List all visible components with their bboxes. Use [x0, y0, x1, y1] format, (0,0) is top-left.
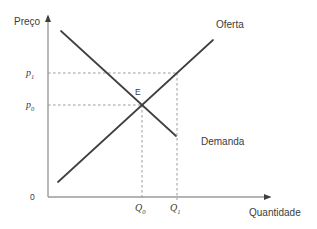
origin-label: 0 — [30, 192, 35, 202]
y-axis-title: Preço — [14, 16, 41, 27]
supply-demand-chart: Preço Oferta Demanda Quantidade E 0 p1 p… — [0, 0, 317, 229]
p0-tick-label: p0 — [25, 99, 35, 112]
demand-curve — [61, 31, 176, 136]
q1-subscript: 1 — [177, 208, 180, 215]
supply-curve-label: Oferta — [216, 19, 244, 30]
x-axis-title: Quantidade — [249, 207, 301, 218]
demand-curve-label: Demanda — [201, 136, 245, 147]
supply-curve — [58, 40, 213, 182]
plot-lines — [48, 16, 270, 200]
q1-tick-label: Q1 — [170, 202, 180, 215]
p0-subscript: 0 — [31, 105, 35, 112]
q0-tick-label: Q0 — [135, 202, 146, 215]
equilibrium-point-label: E — [135, 87, 141, 97]
q0-subscript: 0 — [142, 208, 146, 215]
p1-tick-label: p1 — [25, 67, 34, 80]
supply-demand-figure: Preço Oferta Demanda Quantidade E 0 p1 p… — [0, 0, 317, 229]
p1-subscript: 1 — [31, 73, 34, 80]
